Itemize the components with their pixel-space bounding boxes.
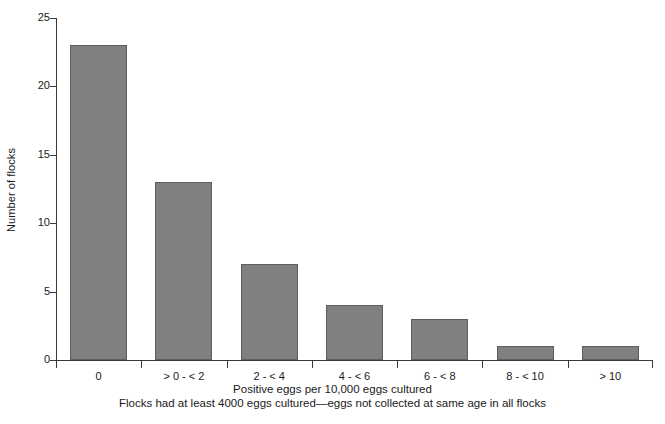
y-tick-label: 25	[24, 12, 50, 23]
y-tick-label: 20	[24, 80, 50, 91]
bar	[497, 346, 554, 360]
x-tick-mark	[227, 361, 228, 368]
bar	[241, 264, 298, 360]
y-tick-label: 0	[24, 354, 50, 365]
y-axis-tick-labels: 0510152025	[20, 10, 50, 362]
bar	[70, 45, 127, 360]
bar-chart-figure: Number of flocks 0510152025 0> 0 - < 22 …	[0, 0, 665, 424]
x-tick-mark	[652, 361, 653, 368]
bar-series	[56, 10, 653, 361]
y-tick-label: 10	[24, 217, 50, 228]
x-tick-mark	[141, 361, 142, 368]
bar	[155, 182, 212, 360]
chart-footnote: Flocks had at least 4000 eggs cultured—e…	[0, 396, 665, 410]
x-tick-mark	[56, 361, 57, 368]
bar	[411, 319, 468, 360]
x-axis-title: Positive eggs per 10,000 eggs cultured	[0, 382, 665, 396]
chart-captions: Positive eggs per 10,000 eggs cultured F…	[0, 382, 665, 410]
x-tick-mark	[568, 361, 569, 368]
bar	[582, 346, 639, 360]
y-tick-label: 15	[24, 149, 50, 160]
x-tick-mark	[312, 361, 313, 368]
x-tick-mark	[397, 361, 398, 368]
plot-area: 0510152025 0> 0 - < 22 - < 44 - < 66 - <…	[56, 10, 653, 362]
y-axis-title: Number of flocks	[0, 0, 22, 380]
x-tick-mark	[482, 361, 483, 368]
y-tick-label: 5	[24, 286, 50, 297]
y-axis-title-text: Number of flocks	[5, 148, 17, 232]
bar	[326, 305, 383, 360]
